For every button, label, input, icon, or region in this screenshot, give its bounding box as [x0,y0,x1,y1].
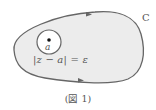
curve-label: C [142,13,150,23]
point-label: a [45,43,50,52]
closed-curve-c [14,12,143,83]
figure-caption: (図 1) [0,94,156,104]
circle-equation: |z − a| = ε [33,55,88,65]
